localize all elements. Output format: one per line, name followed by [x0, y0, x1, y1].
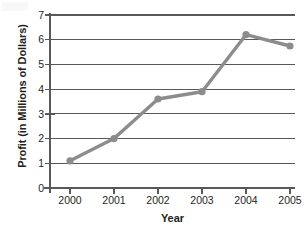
x-axis-title: Year [50, 212, 295, 224]
data-point-2000 [66, 157, 73, 164]
x-tick-label: 2003 [180, 194, 224, 206]
data-point-2002 [154, 95, 161, 102]
line-chart: Profit (in Millions of Dollars) 7 6 5 4 … [0, 0, 306, 233]
data-point-2004 [242, 31, 249, 38]
x-tick-label: 2001 [92, 194, 136, 206]
data-line-profit [70, 35, 290, 161]
x-tick-label: 2000 [48, 194, 92, 206]
x-tick-label: 2004 [224, 194, 268, 206]
data-point-2001 [110, 135, 117, 142]
data-point-2003 [198, 88, 205, 95]
data-point-2005 [286, 42, 293, 49]
x-tick-label: 2002 [136, 194, 180, 206]
x-tick-label: 2005 [268, 194, 306, 206]
